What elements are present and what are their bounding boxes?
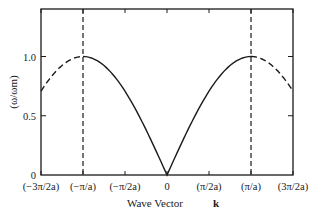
dashed-curve [41,57,83,92]
y-tick-label: 0.5 [23,111,36,122]
x-tick-label: (−π/a) [70,181,96,193]
x-tick-label: (−π/2a) [109,181,141,193]
x-axis-symbol: k [213,197,220,209]
x-tick-label: (3π/2a) [278,181,309,193]
x-tick-label: 0 [164,181,169,192]
solid-curve [83,57,251,176]
y-tick-label: 0 [31,170,36,181]
plot-frame [41,9,293,175]
brillouin-zone-boundaries [83,9,251,175]
x-tick-label: (π/2a) [196,181,222,193]
dispersion-chart: (−3π/2a)(−π/a)(−π/2a)0(π/2a)(π/a)(3π/2a)… [0,0,316,213]
dashed-curve [251,57,293,92]
x-axis-ticks: (−3π/2a)(−π/a)(−π/2a)0(π/2a)(π/a)(3π/2a) [23,9,309,193]
y-axis-ticks: 00.51.0 [23,52,293,182]
y-axis-title: (ω/ωm) [7,75,20,109]
x-tick-label: (−3π/2a) [23,181,60,193]
x-tick-label: (π/a) [241,181,261,193]
x-axis-title: Wave Vector [127,197,183,209]
y-tick-label: 1.0 [23,52,36,63]
dispersion-curves [41,57,293,176]
